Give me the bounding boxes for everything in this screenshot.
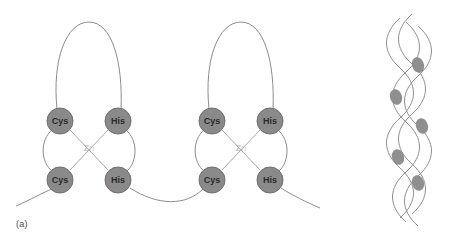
- bound-zinc-finger-domain: [390, 148, 406, 167]
- zinc-coordination-bonds-group: [70, 130, 260, 170]
- zinc-ion-label-finger2: Zn: [236, 143, 247, 153]
- panel-b-dna-helix: (b): [360, 0, 459, 252]
- panel-a-zinc-finger-motifs: Zn Zn Cys His Cys His: [0, 0, 360, 252]
- backbone-finger1-right-strand: [126, 130, 135, 172]
- backbone-finger1-left-strand: [43, 130, 53, 172]
- panel-a-drawing: Zn Zn Cys His Cys His: [0, 0, 360, 252]
- backbone-c-terminal-tail: [281, 188, 320, 208]
- residue-label: His: [263, 175, 277, 185]
- bound-zinc-finger-domain: [410, 174, 426, 193]
- panel-label-a: (a): [16, 219, 28, 229]
- residue-label: Cys: [52, 175, 69, 185]
- bound-zinc-finger-domain: [388, 88, 404, 107]
- panel-b-drawing: [360, 0, 459, 252]
- backbone-finger2-right-strand: [278, 130, 287, 172]
- residue-node-cys-top-left-finger2: Cys: [199, 108, 225, 134]
- residue-node-his-bottom-right-finger2: His: [257, 167, 283, 193]
- backbone-finger2-left-strand: [195, 130, 205, 172]
- residue-label: His: [111, 175, 125, 185]
- residue-node-his-top-right-finger1: His: [105, 108, 131, 134]
- residue-label: Cys: [52, 116, 69, 126]
- backbone-n-terminal-tail: [16, 189, 52, 206]
- backbone-finger1-top-loop: [56, 22, 121, 109]
- backbone-interfinger-linker: [130, 188, 203, 202]
- residue-label: His: [111, 116, 125, 126]
- residue-label: Cys: [204, 175, 221, 185]
- residue-node-cys-bottom-left-finger1: Cys: [47, 167, 73, 193]
- residue-node-cys-top-left-finger1: Cys: [47, 108, 73, 134]
- residue-node-cys-bottom-left-finger2: Cys: [199, 167, 225, 193]
- residue-label: His: [263, 116, 277, 126]
- residue-node-his-bottom-right-finger1: His: [105, 167, 131, 193]
- residue-node-his-top-right-finger2: His: [257, 108, 283, 134]
- zinc-ion-label-finger1: Zn: [84, 143, 95, 153]
- zinc-finger-figure: Zn Zn Cys His Cys His: [0, 0, 459, 252]
- bound-zinc-finger-domain: [410, 56, 426, 75]
- backbone-finger2-top-loop: [208, 22, 273, 109]
- bound-zinc-finger-domain: [414, 117, 430, 136]
- residue-label: Cys: [204, 116, 221, 126]
